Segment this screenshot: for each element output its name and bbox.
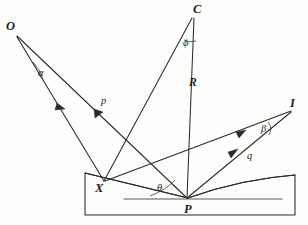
radius-C-to-X (104, 18, 192, 181)
ray-label-p: p (101, 96, 106, 107)
angle-arc-beta (268, 122, 271, 135)
diagram-svg (0, 0, 308, 225)
ray-O-to-X (17, 37, 104, 181)
point-label-C: C (193, 3, 201, 16)
ray-O-to-P (17, 36, 187, 198)
point-label-O: O (6, 20, 15, 33)
ray-diagram-canvas: O C I X P α ϕ β θ p q R (0, 0, 308, 225)
reflected-ray-P-to-I (187, 112, 291, 198)
angle-label-beta: β (261, 124, 266, 135)
point-label-P: P (184, 203, 192, 216)
angle-label-theta: θ (157, 183, 162, 194)
angle-label-alpha: α (38, 68, 44, 79)
angle-label-phi: ϕ (183, 38, 188, 49)
point-label-I: I (290, 97, 295, 110)
ray-label-q: q (247, 151, 252, 162)
ray-label-R: R (189, 77, 197, 89)
point-label-X: X (95, 182, 103, 195)
